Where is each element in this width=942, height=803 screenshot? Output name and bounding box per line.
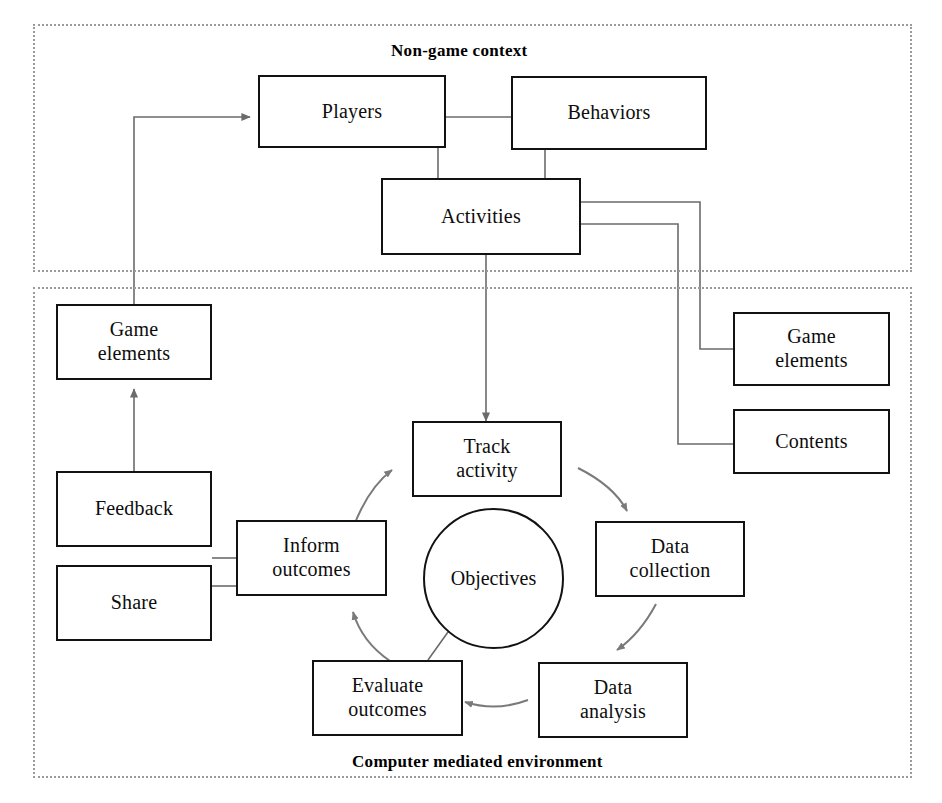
node-objectives[interactable]: Objectives [423,508,564,649]
diagram-canvas: Non-game context Computer mediated envir… [0,0,942,803]
node-players-label: Players [318,100,386,124]
node-data-collection[interactable]: Data collection [595,521,745,597]
node-behaviors-label: Behaviors [564,101,655,125]
node-data-analysis-label: Data analysis [576,676,650,723]
node-evaluate-outcomes-label: Evaluate outcomes [344,674,430,721]
node-inform-outcomes[interactable]: Inform outcomes [236,520,387,596]
region-label-computer-mediated-environment: Computer mediated environment [352,752,603,772]
node-activities[interactable]: Activities [381,178,581,255]
node-activities-label: Activities [437,205,525,229]
region-label-non-game-context: Non-game context [391,41,528,61]
node-evaluate-outcomes[interactable]: Evaluate outcomes [312,660,463,736]
node-objectives-label: Objectives [451,567,537,590]
node-contents[interactable]: Contents [733,409,890,474]
node-track-activity[interactable]: Track activity [412,421,562,497]
node-share-label: Share [107,591,162,615]
node-data-collection-label: Data collection [626,535,715,582]
node-game-elements-right[interactable]: Game elements [733,312,890,386]
node-inform-outcomes-label: Inform outcomes [268,534,354,581]
node-game-elements-right-label: Game elements [771,325,852,372]
node-game-elements-left-label: Game elements [94,318,175,365]
node-track-activity-label: Track activity [452,435,522,482]
node-feedback[interactable]: Feedback [56,471,212,547]
node-game-elements-left[interactable]: Game elements [56,304,212,380]
node-players[interactable]: Players [258,75,446,148]
node-contents-label: Contents [771,430,852,454]
node-data-analysis[interactable]: Data analysis [538,662,688,738]
node-behaviors[interactable]: Behaviors [511,76,707,150]
node-feedback-label: Feedback [91,497,177,521]
node-share[interactable]: Share [56,565,212,641]
